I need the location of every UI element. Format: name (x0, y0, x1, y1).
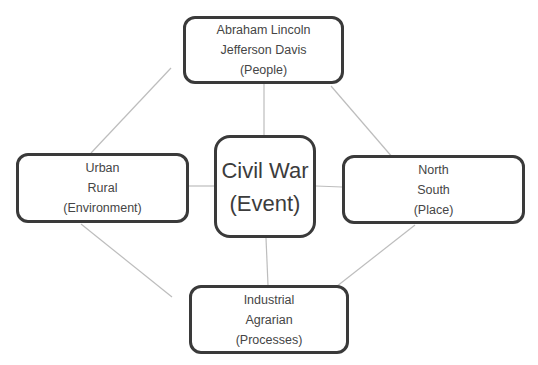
node-text: Agrarian (245, 310, 292, 330)
node-text: Industrial (244, 290, 295, 310)
connector-left-bottom (81, 224, 172, 297)
node-text: North (418, 160, 449, 180)
node-text: Urban (85, 158, 119, 178)
node-environment: Urban Rural (Environment) (16, 153, 189, 223)
concept-map: Abraham Lincoln Jefferson Davis (People)… (0, 0, 538, 365)
node-processes: Industrial Agrarian (Processes) (189, 285, 349, 354)
node-category: (Environment) (63, 198, 142, 218)
node-category: (Place) (414, 200, 454, 220)
node-text: Abraham Lincoln (217, 20, 311, 40)
node-category: (Processes) (236, 330, 303, 350)
connector-right-bottom (327, 225, 415, 294)
connector-top-left (91, 68, 171, 153)
node-people: Abraham Lincoln Jefferson Davis (People) (183, 16, 344, 84)
node-text: Rural (88, 178, 118, 198)
center-title: Civil War (221, 154, 308, 187)
connector-center-right (316, 186, 342, 187)
node-category: (People) (240, 60, 287, 80)
node-text: Jefferson Davis (221, 40, 307, 60)
center-category: (Event) (230, 187, 301, 220)
node-text: South (417, 180, 450, 200)
node-place: North South (Place) (342, 155, 525, 224)
connector-top-right (331, 86, 393, 158)
node-event-center: Civil War (Event) (214, 135, 316, 238)
connector-center-bottom (266, 238, 268, 285)
